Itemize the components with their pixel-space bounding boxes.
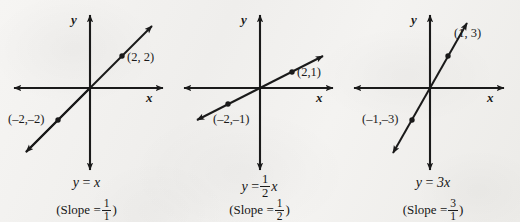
equation-fraction-p2: 12 — [260, 173, 270, 200]
point-marker-2-2 — [119, 53, 124, 58]
equation-equals-p2: = — [251, 179, 259, 194]
equation-equals-p3: = — [426, 175, 434, 190]
equation-lhs-p3: y — [416, 175, 422, 190]
slope-fraction-p3: 31 — [448, 198, 458, 222]
point-marker-neg2-neg2 — [55, 117, 60, 122]
figure-three-slope-graphs: y x (2, 2) (–2,–2) y = x (Slope =11) — [0, 0, 520, 222]
equation-rhs-p1: x — [94, 175, 100, 190]
equation-caption-p1: y = x — [0, 176, 173, 190]
slope-open-p1: (Slope = — [56, 202, 101, 217]
y-axis-label-p2: y — [241, 13, 247, 26]
slope-close-p3: ) — [459, 202, 463, 217]
point-label-1-3: (1, 3) — [454, 27, 481, 40]
graph-panel-slope-1: y x (2, 2) (–2,–2) y = x (Slope =11) — [0, 0, 173, 222]
slope-close-p1: ) — [112, 202, 116, 217]
equation-lhs-p1: y — [73, 175, 79, 190]
slope-caption-p1: (Slope =11) — [0, 198, 173, 222]
point-label-neg2-neg2: (–2,–2) — [8, 113, 44, 126]
point-marker-neg1-neg3 — [409, 117, 414, 122]
slope-numerator-p3: 3 — [448, 198, 458, 211]
slope-fraction-p1: 11 — [102, 198, 112, 222]
point-label-2-2: (2, 2) — [127, 51, 154, 64]
equation-equals-p1: = — [83, 175, 91, 190]
x-axis-label-p2: x — [316, 91, 323, 104]
slope-denominator-p2: 2 — [275, 211, 285, 222]
equation-caption-p3: y = 3x — [346, 176, 520, 190]
x-axis-label-p1: x — [146, 91, 153, 104]
slope-denominator-p1: 1 — [102, 211, 112, 222]
slope-open-p3: (Slope = — [403, 202, 448, 217]
slope-caption-p3: (Slope =31) — [346, 198, 520, 222]
y-axis-label-p3: y — [411, 13, 417, 26]
point-label-neg1-neg3: (–1,–3) — [362, 113, 398, 126]
equation-lhs-p2: y — [241, 179, 247, 194]
equation-numerator-p2: 1 — [260, 173, 270, 187]
slope-numerator-p2: 1 — [275, 198, 285, 211]
slope-numerator-p1: 1 — [102, 198, 112, 211]
point-label-2-1: (2,1) — [297, 66, 321, 79]
x-axis-label-p3: x — [487, 91, 494, 104]
point-label-neg2-neg1: (–2,–1) — [213, 113, 249, 126]
point-marker-1-3 — [445, 53, 450, 58]
equation-caption-p2: y =12x — [173, 173, 346, 200]
slope-denominator-p3: 1 — [448, 211, 458, 222]
graph-panel-slope-one-half: y x (2,1) (–2,–1) y =12x (Slope =12) — [173, 0, 346, 222]
slope-caption-p2: (Slope =12) — [173, 198, 346, 222]
slope-close-p2: ) — [285, 202, 289, 217]
point-marker-neg2-neg1 — [225, 101, 230, 106]
equation-rhs-p3: 3x — [437, 175, 450, 190]
slope-open-p2: (Slope = — [229, 202, 274, 217]
equation-rhs-p2: x — [271, 179, 277, 194]
slope-fraction-p2: 12 — [275, 198, 285, 222]
graph-panel-slope-3: y x (1, 3) (–1,–3) y = 3x (Slope =31) — [346, 0, 519, 222]
y-axis-label-p1: y — [71, 13, 77, 26]
point-marker-2-1 — [289, 69, 294, 74]
